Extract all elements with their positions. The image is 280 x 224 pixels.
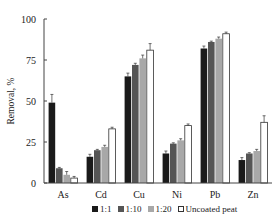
legend-item-uncoated-peat: Uncoated peat	[178, 204, 238, 214]
y-axis: 0255075100	[21, 14, 47, 189]
bar	[177, 140, 184, 183]
bar	[215, 39, 222, 183]
x-category-label: Pb	[210, 189, 221, 200]
bar	[147, 50, 154, 183]
y-tick-label: 50	[26, 96, 36, 107]
bar	[71, 178, 78, 183]
bar	[239, 160, 246, 183]
x-category-label: Ni	[172, 189, 182, 200]
y-tick-label: 75	[26, 55, 36, 66]
bar	[223, 34, 230, 183]
legend: 1:1 1:10 1:20 Uncoated peat	[92, 204, 237, 214]
bar	[109, 129, 116, 183]
legend-swatch	[118, 206, 124, 212]
y-tick-label: 100	[21, 14, 36, 25]
legend-swatch	[92, 206, 98, 212]
bar	[87, 157, 94, 183]
x-category-label: Cu	[133, 189, 145, 200]
bar	[208, 42, 215, 183]
bar	[125, 76, 132, 183]
bar	[139, 58, 146, 183]
legend-swatch	[178, 206, 184, 212]
x-axis: AsCdCuNiPbZn	[44, 183, 272, 200]
bar	[56, 168, 63, 183]
bar	[49, 103, 56, 183]
y-tick-label: 25	[26, 137, 36, 148]
bar	[246, 153, 253, 183]
bar	[101, 147, 108, 183]
bar	[261, 122, 268, 183]
y-tick-label: 0	[31, 178, 36, 189]
bar	[201, 49, 208, 183]
legend-swatch	[148, 206, 154, 212]
x-category-label: Cd	[95, 189, 107, 200]
x-category-label: As	[57, 189, 68, 200]
x-category-label: Zn	[247, 189, 258, 200]
bar-chart: 0255075100 AsCdCuNiPbZn Removal, %	[0, 0, 280, 224]
bar	[185, 126, 192, 183]
legend-label: 1:10	[126, 204, 142, 214]
legend-item-1-20: 1:20	[148, 204, 172, 214]
legend-label: Uncoated peat	[186, 204, 238, 214]
bar	[63, 175, 70, 183]
bars	[49, 32, 268, 183]
legend-item-1-10: 1:10	[118, 204, 142, 214]
legend-item-1-1: 1:1	[92, 204, 112, 214]
bar	[170, 144, 177, 183]
bar	[132, 65, 139, 183]
y-axis-title: Removal, %	[6, 77, 16, 124]
bar	[253, 151, 260, 183]
bar	[94, 150, 101, 183]
legend-label: 1:20	[156, 204, 172, 214]
bar	[163, 153, 170, 183]
legend-label: 1:1	[100, 204, 112, 214]
